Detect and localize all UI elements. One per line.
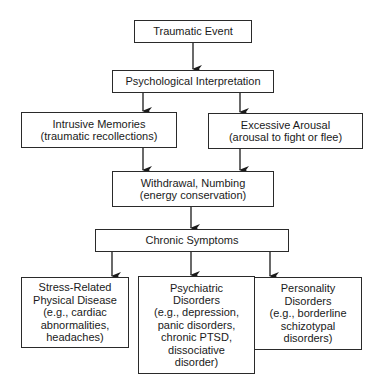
node-label: Stress-Related bbox=[39, 281, 112, 293]
node-traumatic-event: Traumatic Event bbox=[134, 20, 252, 43]
node-label: Disorders bbox=[173, 294, 220, 306]
node-chronic-symptoms: Chronic Symptoms bbox=[95, 229, 289, 252]
node-label: Disorders bbox=[284, 295, 331, 307]
node-sublabel: (e.g., borderline bbox=[269, 307, 346, 319]
node-sublabel: headaches) bbox=[46, 331, 104, 343]
node-psychiatric-disorders: Psychiatric Disorders (e.g., depression,… bbox=[138, 276, 255, 374]
node-label: Psychiatric bbox=[170, 282, 223, 294]
node-label: Personality bbox=[281, 282, 335, 294]
node-sublabel: (traumatic recollections) bbox=[41, 130, 158, 142]
node-sublabel: disorder) bbox=[175, 356, 218, 368]
node-sublabel: abnormalities, bbox=[41, 319, 109, 331]
node-label: Excessive Arousal bbox=[241, 119, 330, 131]
node-label: Chronic Symptoms bbox=[146, 234, 239, 246]
node-stress-related-physical-disease: Stress-Related Physical Disease (e.g., c… bbox=[21, 277, 129, 348]
node-label: Withdrawal, Numbing bbox=[141, 177, 246, 189]
node-excessive-arousal: Excessive Arousal (arousal to fight or f… bbox=[208, 113, 363, 149]
node-sublabel: disorders) bbox=[284, 332, 333, 344]
node-sublabel: (energy conservation) bbox=[140, 189, 246, 201]
node-sublabel: (e.g., depression, bbox=[154, 306, 239, 318]
node-intrusive-memories: Intrusive Memories (traumatic recollecti… bbox=[21, 112, 177, 148]
node-sublabel: (e.g., cardiac bbox=[43, 306, 107, 318]
node-sublabel: dissociative bbox=[168, 344, 225, 356]
node-label: Traumatic Event bbox=[153, 25, 233, 37]
node-label: Psychological Interpretation bbox=[125, 75, 260, 87]
node-label: Intrusive Memories bbox=[53, 118, 146, 130]
node-label: Physical Disease bbox=[33, 294, 117, 306]
node-personality-disorders: Personality Disorders (e.g., borderline … bbox=[254, 277, 362, 350]
node-sublabel: schizotypal bbox=[281, 320, 335, 332]
node-sublabel: chronic PTSD, bbox=[161, 331, 232, 343]
node-sublabel: panic disorders, bbox=[158, 319, 236, 331]
node-withdrawal-numbing: Withdrawal, Numbing (energy conservation… bbox=[112, 171, 274, 207]
node-psychological-interpretation: Psychological Interpretation bbox=[112, 70, 274, 93]
node-sublabel: (arousal to fight or flee) bbox=[229, 131, 342, 143]
